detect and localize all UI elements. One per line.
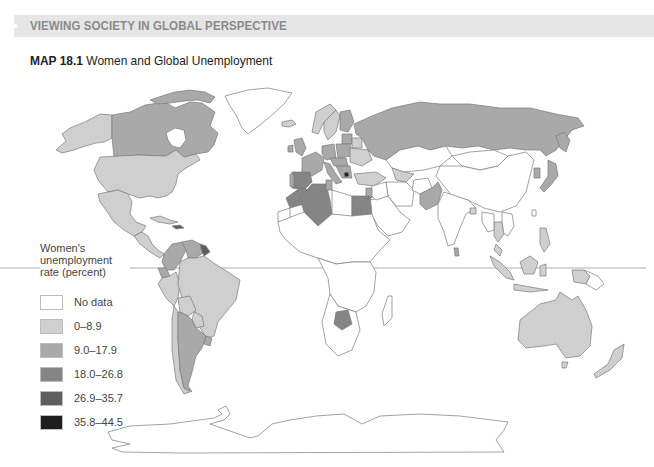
country-baltics	[342, 134, 352, 144]
legend-title: Women's unemployment rate (percent)	[40, 242, 130, 278]
country-myanmar	[482, 212, 494, 232]
legend-swatch	[40, 367, 63, 382]
legend-item-18-26.8: 18.0–26.8	[40, 362, 130, 386]
country-greenland	[225, 88, 292, 134]
country-madagascar	[382, 296, 392, 326]
legend-items: No data 0–8.9 9.0–17.9 18.0–26.8 26.9–35…	[40, 290, 130, 434]
legend-label: 9.0–17.9	[74, 344, 117, 356]
legend-item-0-8.9: 0–8.9	[40, 314, 130, 338]
legend-item-no-data: No data	[40, 290, 130, 314]
country-canada	[112, 102, 218, 157]
legend-label: 0–8.9	[74, 320, 102, 332]
legend-item-26.9-35.7: 26.9–35.7	[40, 386, 130, 410]
country-java	[514, 284, 548, 292]
country-portugal	[290, 174, 294, 188]
country-borneo	[520, 256, 538, 274]
country-alaska	[56, 114, 112, 153]
country-egypt	[352, 196, 372, 216]
country-taiwan	[532, 210, 536, 216]
country-balkans	[336, 166, 352, 178]
country-germany	[322, 144, 336, 160]
country-cuba	[150, 216, 178, 224]
antarctica	[108, 406, 508, 453]
country-macedonia	[344, 172, 349, 177]
legend-label: No data	[74, 296, 113, 308]
legend-swatch	[40, 343, 63, 358]
country-korea	[534, 168, 540, 178]
legend-label: 18.0–26.8	[74, 368, 123, 380]
country-venezuela	[182, 240, 204, 258]
country-poland	[336, 144, 352, 158]
country-iceland	[282, 120, 296, 127]
country-tunisia	[326, 180, 332, 190]
country-japan	[540, 160, 558, 192]
country-central-europe	[330, 158, 348, 166]
arctic-islands	[150, 90, 215, 104]
legend-swatch	[40, 415, 63, 430]
country-tasmania	[562, 362, 568, 368]
country-philippines	[540, 228, 550, 252]
country-bangladesh	[470, 208, 476, 214]
country-usa	[94, 150, 200, 198]
central-america	[134, 232, 164, 258]
legend-label: 26.9–35.7	[74, 392, 123, 404]
map-legend: Women's unemployment rate (percent) No d…	[40, 242, 130, 434]
legend-label: 35.8–44.5	[74, 416, 123, 428]
country-uk	[294, 138, 306, 156]
legend-swatch	[40, 319, 63, 334]
country-finland	[340, 110, 354, 132]
country-new-zealand	[594, 344, 624, 378]
country-hispaniola	[172, 225, 184, 229]
country-ireland	[288, 145, 293, 152]
country-sri-lanka	[454, 248, 459, 256]
legend-swatch	[40, 295, 63, 310]
legend-swatch	[40, 391, 63, 406]
country-central-africa	[318, 258, 376, 312]
country-australia	[518, 292, 592, 358]
country-russia	[354, 102, 584, 160]
legend-item-35.8-44.5: 35.8–44.5	[40, 410, 130, 434]
legend-item-9-17.9: 9.0–17.9	[40, 338, 130, 362]
country-malaysia	[494, 244, 502, 256]
country-indochina	[502, 212, 514, 236]
country-sulawesi	[540, 264, 546, 276]
country-sahel	[278, 212, 390, 264]
country-belarus	[352, 138, 362, 148]
